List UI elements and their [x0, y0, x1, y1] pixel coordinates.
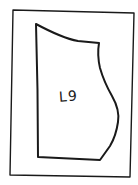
piece-label: L9 [58, 87, 78, 104]
